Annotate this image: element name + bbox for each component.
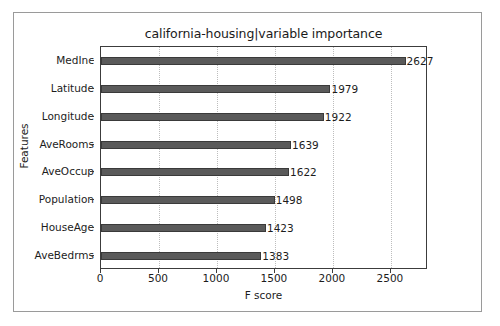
y-axis-tick-label: AveRooms (39, 138, 94, 150)
bar (101, 168, 289, 176)
bar (101, 141, 291, 149)
y-axis-tick-mark (90, 171, 94, 172)
y-axis-tick-label: Longitude (42, 110, 94, 122)
x-axis-tick-label: 500 (148, 272, 168, 284)
bar (101, 196, 275, 204)
bar (101, 224, 266, 232)
figure: california-housing|variable importance F… (0, 0, 500, 326)
y-axis-tick-label: HouseAge (41, 221, 94, 233)
y-axis-tick-labels: MedIncLatitudeLongitudeAveRoomsAveOccupP… (0, 46, 94, 269)
bar-value-label: 1622 (290, 166, 317, 178)
x-axis-label: F score (100, 289, 427, 301)
y-axis-tick-label: Population (39, 193, 94, 205)
y-axis-tick-mark (90, 227, 94, 228)
y-axis-tick-mark (90, 255, 94, 256)
y-axis-tick-label: AveOccup (42, 165, 94, 177)
y-axis-tick-mark (90, 116, 94, 117)
x-axis-tick-label: 1500 (261, 272, 288, 284)
bar-value-label: 1423 (267, 222, 294, 234)
y-axis-tick-mark (90, 88, 94, 89)
bar-value-label: 1639 (292, 139, 319, 151)
bar-value-label: 1383 (262, 250, 289, 262)
x-axis-tick-label: 2500 (377, 272, 404, 284)
y-axis-tick-label: AveBedrms (35, 249, 94, 261)
x-axis-tick-label: 1000 (203, 272, 230, 284)
y-axis-tick-mark (90, 199, 94, 200)
bar-value-label: 1498 (276, 194, 303, 206)
bar-value-label: 1922 (325, 111, 352, 123)
bars-layer: 26271979192216391622149814231383 (101, 47, 426, 268)
bar-value-label: 2627 (407, 55, 434, 67)
bar (101, 113, 324, 121)
x-axis-tick-label: 0 (97, 272, 104, 284)
bar (101, 57, 406, 65)
bar (101, 85, 330, 93)
bar (101, 252, 261, 260)
bar-value-label: 1979 (331, 83, 358, 95)
y-axis-tick-mark (90, 60, 94, 61)
y-axis-tick-label: MedInc (56, 54, 94, 66)
chart-title: california-housing|variable importance (100, 26, 427, 41)
x-axis-tick-label: 2000 (319, 272, 346, 284)
plot-area: 26271979192216391622149814231383 (100, 46, 427, 269)
x-axis-tick-labels: 05001000150020002500 (100, 272, 427, 288)
y-axis-tick-label: Latitude (51, 82, 94, 94)
y-axis-tick-mark (90, 144, 94, 145)
